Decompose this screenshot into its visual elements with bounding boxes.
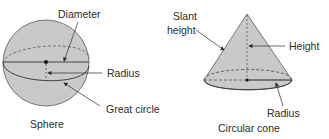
cone-caption: Circular cone bbox=[218, 122, 280, 134]
height-label: Height bbox=[289, 40, 319, 52]
great-circle-label: Great circle bbox=[106, 103, 160, 115]
geometry-diagram: Diameter Radius Great circle Sphere Slan… bbox=[0, 0, 329, 139]
slant-label-line1: Slant bbox=[173, 10, 197, 22]
diameter-label: Diameter bbox=[58, 8, 101, 20]
slant-height-leader bbox=[196, 30, 224, 50]
sphere-radius-label: Radius bbox=[107, 67, 140, 79]
slant-label-line2: height bbox=[167, 24, 196, 36]
cone-shape bbox=[204, 14, 292, 90]
sphere-shape bbox=[3, 20, 89, 106]
sphere-caption: Sphere bbox=[30, 118, 64, 130]
cone-radius-label: Radius bbox=[267, 107, 300, 119]
